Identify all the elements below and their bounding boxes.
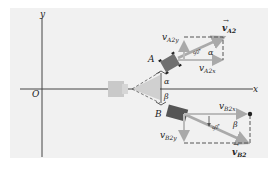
label-vA2y: vA2y: [162, 32, 179, 44]
svg-text:→: →: [223, 17, 229, 25]
label-vB2y: vB2y: [160, 130, 177, 142]
origin-label: O: [32, 89, 40, 99]
label-vA2x: vA2x: [199, 63, 216, 74]
angle-alpha-right: α: [208, 48, 214, 57]
angle-alpha-left: α: [164, 77, 170, 86]
collision-diagram: y x O A B α β α β 90° 90° vA2 → vA2y vA2…: [0, 0, 280, 175]
y-axis-label: y: [39, 9, 46, 19]
vB2x-endpoint: [248, 112, 252, 116]
angle-beta-right: β: [232, 120, 238, 129]
x-axis-label: x: [253, 84, 258, 94]
point-a-label: A: [147, 54, 155, 64]
svg-text:→: →: [233, 141, 239, 149]
angle-beta-left: β: [163, 92, 169, 101]
label-vB2x: vB2x: [219, 101, 236, 112]
point-b-label: B: [154, 109, 162, 119]
car-initial: [108, 81, 124, 97]
